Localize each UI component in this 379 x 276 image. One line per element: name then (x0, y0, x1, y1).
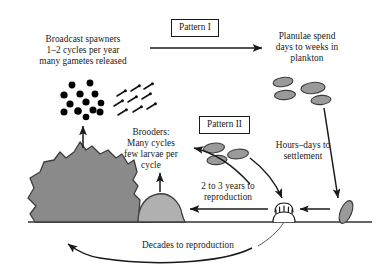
pattern-two-box: Pattern II (199, 116, 250, 134)
sperm-streak-cluster (114, 84, 155, 115)
label-planulae-plankton: Planulae spend days to weeks in plankton (255, 31, 359, 64)
label-hours-days-settlement: Hours–days to settlement (250, 140, 356, 162)
pattern-one-box: Pattern I (171, 19, 219, 37)
label-years-to-reproduction: 2 to 3 years to reproduction (176, 181, 280, 203)
label-decades-to-reproduction: Decades to reproduction (108, 240, 268, 251)
label-brooders: Brooders: Many cycles few larvae per cyc… (105, 127, 197, 171)
gamete-egg-cluster (60, 80, 104, 121)
coral-lifecycle-diagram: Broadcast spawners 1–2 cycles per year m… (0, 0, 379, 276)
recruit-polyp (273, 203, 295, 222)
label-broadcast-spawners: Broadcast spawners 1–2 cycles per year m… (8, 34, 158, 67)
planula-cluster-plankton (272, 76, 331, 105)
